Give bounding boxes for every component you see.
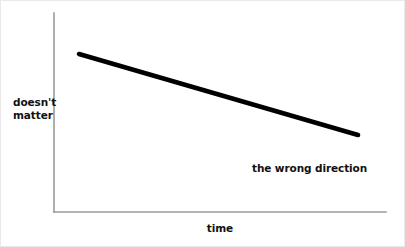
chart-figure: doesn't matter the wrong direction time [0, 0, 405, 247]
y-axis-label-line-1: doesn't [13, 96, 53, 109]
chart-annotation: the wrong direction [252, 162, 367, 174]
y-axis-label-line-2: matter [13, 109, 53, 122]
x-axis-label: time [54, 222, 386, 234]
y-axis-label: doesn't matter [13, 96, 53, 122]
plot-area [1, 1, 405, 247]
trend-line [79, 54, 358, 135]
